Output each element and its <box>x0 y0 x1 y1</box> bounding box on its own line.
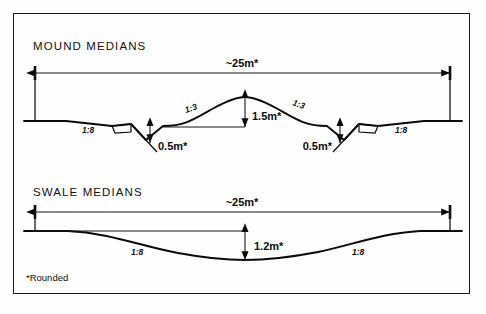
swale-width-dimension: ~25m* <box>35 196 450 232</box>
mound-curb-left <box>112 124 131 133</box>
swale-slope-right: 1:8 <box>352 247 365 257</box>
swale-width-label: ~25m* <box>226 196 259 208</box>
mound-height-label: 1.5m* <box>252 110 282 122</box>
mound-depth-leader-left <box>131 124 157 152</box>
median-cross-sections: MOUND MEDIANS ~25m* 1.5m* <box>0 0 486 314</box>
mound-slope-outer-right: 1:8 <box>395 125 408 135</box>
mound-curb-right <box>359 124 378 133</box>
figure-footnote: *Rounded <box>26 272 68 283</box>
mound-depth-label-right: 0.5m* <box>303 140 333 152</box>
figure-canvas: MOUND MEDIANS ~25m* 1.5m* <box>0 0 486 314</box>
mound-depth-leader-right <box>333 124 359 152</box>
mound-slope-inner-left: 1:3 <box>183 101 198 115</box>
mound-slope-outer-left: 1:8 <box>82 125 95 135</box>
mound-section-title: MOUND MEDIANS <box>33 40 146 52</box>
swale-slope-left: 1:8 <box>131 247 144 257</box>
mound-width-dimension: ~25m* <box>35 57 450 122</box>
swale-medians-section: SWALE MEDIANS ~25m* 1.2m* 1:8 1:8 <box>24 186 462 283</box>
swale-section-title: SWALE MEDIANS <box>33 186 143 198</box>
mound-slope-inner-right: 1:3 <box>291 97 306 111</box>
mound-depth-label-left: 0.5m* <box>158 140 188 152</box>
swale-ground-profile <box>24 231 462 260</box>
swale-depth-label: 1.2m* <box>254 240 284 252</box>
swale-depth-dimension: 1.2m* <box>35 231 284 260</box>
mound-width-label: ~25m* <box>226 57 259 69</box>
mound-medians-section: MOUND MEDIANS ~25m* 1.5m* <box>24 40 462 152</box>
